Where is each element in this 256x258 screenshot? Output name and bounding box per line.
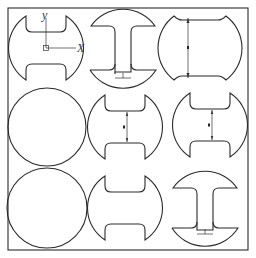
cell-r1-c0 bbox=[8, 88, 86, 166]
cell-r0-c1 bbox=[90, 9, 156, 88]
cell-r0-c2 bbox=[158, 16, 242, 80]
cell-r1-c1 bbox=[87, 95, 162, 159]
cell-r1-c2 bbox=[172, 93, 247, 157]
cell-r2-c0 bbox=[7, 168, 87, 248]
cell-r2-c2 bbox=[172, 171, 238, 246]
cross-section-diagram: y X bbox=[0, 0, 256, 258]
cell-r0-c0 bbox=[8, 16, 83, 80]
cell-r2-c1 bbox=[87, 176, 162, 240]
y-axis-label: y bbox=[41, 8, 48, 22]
x-axis-label: X bbox=[76, 41, 85, 55]
